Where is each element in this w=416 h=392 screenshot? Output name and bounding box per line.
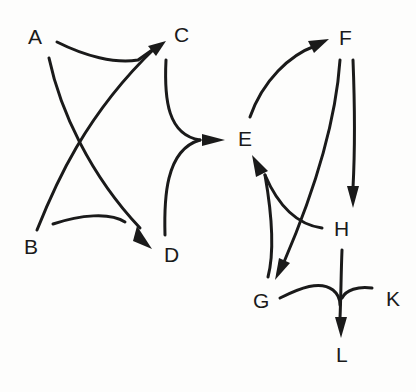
- arrowhead-f: [308, 39, 329, 53]
- edge-f-to-g: [284, 60, 340, 262]
- node-b: B: [24, 235, 38, 258]
- edge-g-to-l: [280, 285, 340, 305]
- node-k: K: [386, 287, 400, 310]
- node-a: A: [28, 25, 42, 48]
- node-d: D: [164, 243, 179, 266]
- edge-f-to-h: [353, 60, 355, 188]
- node-h: H: [334, 217, 349, 240]
- directed-graph-diagram: A B C D E F G H K L: [0, 0, 416, 392]
- node-c: C: [174, 23, 189, 46]
- edge-h-to-l: [340, 250, 342, 318]
- edge-d-to-e: [165, 140, 200, 235]
- edge-b-to-d: [53, 216, 125, 224]
- node-e: E: [238, 127, 252, 150]
- arrowhead-l: [335, 317, 347, 338]
- arrowhead-g: [275, 258, 290, 280]
- edge-a-to-d: [49, 58, 140, 228]
- graph-canvas: A B C D E F G H K L: [0, 0, 416, 392]
- arrowhead-e-from-cd: [202, 134, 225, 146]
- node-l: L: [336, 343, 348, 366]
- arrowhead-h: [347, 186, 359, 208]
- edge-a-to-c: [57, 42, 155, 61]
- node-f: F: [339, 26, 352, 49]
- node-g: G: [253, 289, 269, 312]
- edge-c-to-e: [166, 60, 200, 140]
- edge-e-to-f: [250, 46, 315, 117]
- arrowhead-d: [133, 226, 152, 249]
- edge-k-to-l: [342, 287, 372, 298]
